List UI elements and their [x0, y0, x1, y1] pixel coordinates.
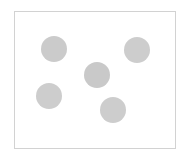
- scatter-point-2: [124, 37, 150, 63]
- scatter-point-1: [41, 36, 67, 62]
- scatter-point-3: [84, 62, 110, 88]
- scatter-point-5: [100, 97, 126, 123]
- canvas-root: [0, 0, 188, 161]
- scatter-point-4: [36, 83, 62, 109]
